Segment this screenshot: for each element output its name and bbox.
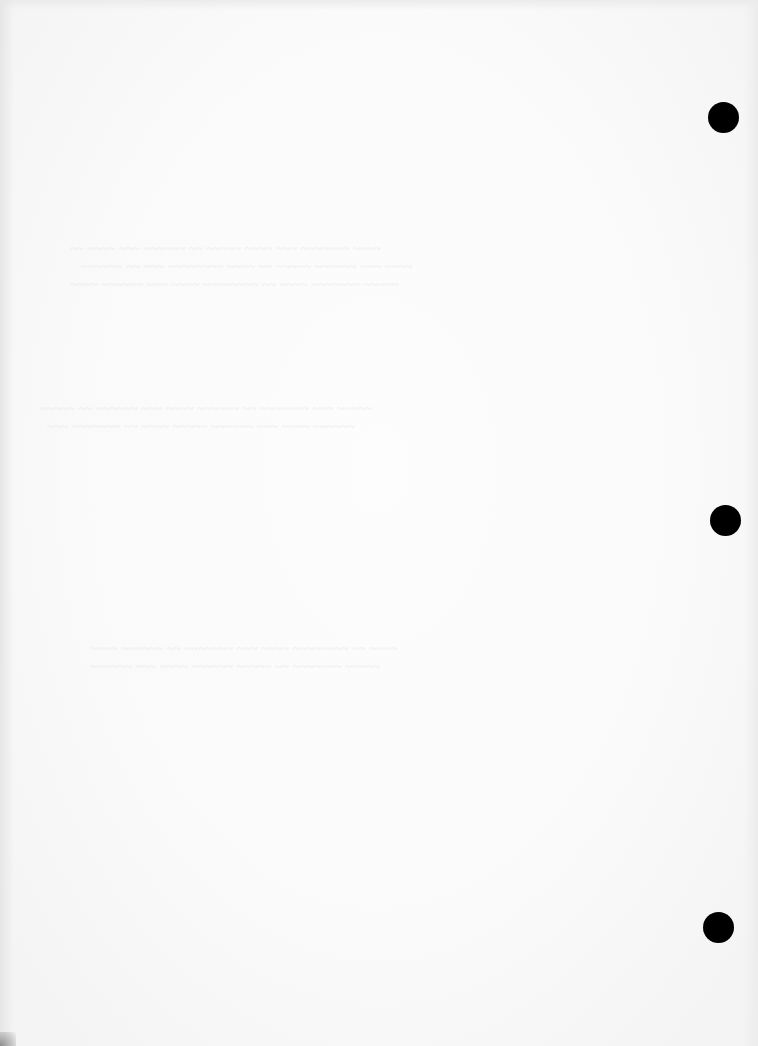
- punch-hole-top: [708, 102, 739, 133]
- scan-edge-left: [0, 0, 14, 1046]
- punch-hole-bottom: [703, 912, 734, 943]
- scan-corner-smudge: [0, 1032, 16, 1046]
- scan-edge-right: [744, 0, 758, 1046]
- scanned-page: ~~ ~~~~ ~~~ ~~~~~~ ~~ ~~~~~ ~~~~ ~~~ ~~~…: [0, 0, 758, 1046]
- scan-edge-top: [0, 0, 758, 10]
- punch-hole-middle: [710, 505, 741, 536]
- bleed-through-block-1: ~~ ~~~~ ~~~ ~~~~~~ ~~ ~~~~~ ~~~~ ~~~ ~~~…: [70, 240, 413, 294]
- bleed-through-block-2: ~~~~~ ~~ ~~~~~~ ~~~ ~~~~ ~~~~~~ ~~ ~~~~~…: [40, 400, 372, 436]
- bleed-through-block-3: ~~~~ ~~~~~~ ~~ ~~~~~~~ ~~~ ~~~~ ~~~~~~~~…: [90, 640, 398, 676]
